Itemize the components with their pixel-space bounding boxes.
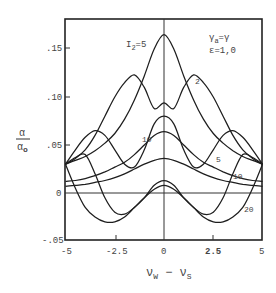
svg-text:20: 20 xyxy=(244,205,254,214)
curve-labels: I2=5 2 10 5 10 20 xyxy=(126,40,254,214)
svg-text:5: 5 xyxy=(216,155,221,164)
svg-text:10: 10 xyxy=(233,172,243,181)
x-tick: -5 xyxy=(61,247,72,257)
svg-text:ε=1,0: ε=1,0 xyxy=(209,46,236,56)
x-tick: 0 xyxy=(161,247,166,257)
y-tick: -.05 xyxy=(42,236,64,246)
y-tick: .05 xyxy=(46,141,62,151)
parameter-annotation: γa=γ ε=1,0 xyxy=(209,33,236,56)
svg-text:I2=5: I2=5 xyxy=(126,40,146,52)
svg-text:10: 10 xyxy=(142,135,152,144)
y-tick: 0 xyxy=(56,189,61,199)
svg-text:γa=γ: γa=γ xyxy=(209,33,230,45)
x-tick: 5 xyxy=(259,247,264,257)
y-tick: .10 xyxy=(46,93,62,103)
svg-text:νW − νS: νW − νS xyxy=(146,266,192,281)
chart: .15 .10 .05 0 -.05 -5 -2.5 0 2.5 5 νW − … xyxy=(0,0,276,293)
x-tick: 2.5 xyxy=(205,247,221,257)
svg-text:2: 2 xyxy=(195,77,200,86)
y-axis-label: α αo xyxy=(16,128,30,154)
x-axis-label: νW − νS xyxy=(146,266,192,281)
svg-text:α: α xyxy=(19,128,25,139)
x-axis: -5 -2.5 0 2.5 5 xyxy=(61,235,264,257)
y-tick: .15 xyxy=(46,44,62,54)
svg-text:αo: αo xyxy=(17,142,28,154)
x-tick: -2.5 xyxy=(106,247,128,257)
